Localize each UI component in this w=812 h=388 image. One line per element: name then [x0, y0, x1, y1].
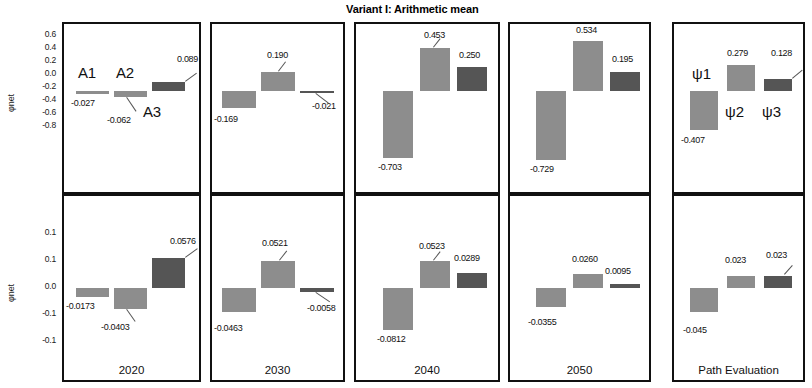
bar-bottom-2050-a2 [573, 274, 603, 288]
bar-top-2020-a2 [114, 91, 147, 97]
value-label-top-2040-a1: -0.703 [378, 163, 402, 172]
y-tick-bottom-2: 0.0 [4, 282, 56, 291]
bar-top-2020-a1 [76, 91, 109, 94]
value-label-top-2030-a2: 0.190 [267, 51, 288, 60]
value-label-top-path-psi3: 0.128 [771, 49, 792, 58]
bar-bottom-path-psi1 [690, 288, 718, 312]
plot-area-bottom-2040: -0.0812 0.0523 0.0289 2040 [356, 196, 498, 380]
value-label-bottom-2050-a1: -0.0355 [528, 318, 556, 327]
chart-row-variant-2: Variant II: Discounting discount factor:… [0, 194, 812, 388]
y-tick-top-3: 0.0 [4, 69, 56, 78]
value-label-top-2050-a2: 0.534 [576, 26, 597, 35]
plot-area-top-2040: -0.703 0.453 0.250 [356, 24, 498, 192]
bar-bottom-2030-a3 [300, 288, 334, 292]
series-label-psi3: ψ3 [762, 104, 781, 119]
value-label-bottom-2040-a2: 0.0523 [419, 242, 445, 251]
leader-top-2030-a2 [278, 61, 286, 71]
leader-bottom-2040-a2 [433, 251, 441, 260]
value-label-top-path-psi2: 0.279 [727, 49, 748, 58]
chart-figure: Variant I: Arithmetic mean φnet 0.6 0.4 … [0, 0, 812, 388]
panel-caption-bottom-2050: 2050 [510, 364, 649, 376]
panel-bottom-2020: -0.0173 -0.0403 0.0576 2020 [62, 194, 201, 382]
value-label-top-2050-a3: 0.195 [612, 55, 633, 64]
y-tick-top-5: -0.4 [4, 95, 56, 104]
bar-bottom-2020-a2 [114, 288, 147, 309]
bar-bottom-2040-a1 [383, 288, 413, 330]
bar-top-2020-a3 [152, 82, 185, 91]
series-label-a2: A2 [116, 65, 134, 80]
series-label-psi2: ψ2 [725, 104, 744, 119]
bar-bottom-2030-a2 [261, 261, 295, 288]
value-label-top-2040-a3: 0.250 [459, 51, 480, 60]
bar-bottom-2040-a3 [457, 273, 487, 288]
panel-top-2030: -0.169 0.190 -0.021 [210, 22, 345, 194]
value-label-bottom-2030-a2: 0.0521 [262, 239, 288, 248]
y-tick-bottom-4: -0.1 [4, 336, 56, 345]
bar-bottom-2050-a1 [536, 288, 566, 307]
variant-1-title: Variant I: Arithmetic mean [346, 3, 479, 15]
value-label-top-2030-a1: -0.169 [214, 115, 238, 124]
y-axis-bottom: φnet 0.1 0.1 0.0 -0.1 -0.1 [0, 222, 56, 382]
plot-area-bottom-2050: -0.0355 0.0260 0.0095 2050 [510, 196, 649, 380]
y-tick-bottom-3: -0.1 [4, 309, 56, 318]
plot-area-top-path-evaluation: ψ1 ψ2 ψ3 -0.407 0.279 0.128 [674, 24, 803, 192]
value-label-bottom-2020-a3: 0.0576 [170, 237, 196, 246]
y-tick-top-7: -0.8 [4, 121, 56, 130]
y-tick-top-0: 0.6 [4, 30, 56, 39]
bar-bottom-path-psi2 [727, 276, 755, 288]
bar-bottom-2040-a2 [420, 261, 450, 288]
plot-area-top-2050: -0.729 0.534 0.195 [510, 24, 649, 192]
bar-top-2050-a1 [536, 91, 566, 160]
bar-top-2050-a3 [610, 72, 640, 91]
leader-bottom-2020-a3 [185, 248, 198, 258]
y-tick-top-1: 0.4 [4, 43, 56, 52]
value-label-bottom-2050-a3: 0.0095 [605, 267, 631, 276]
panel-caption-bottom-path-evaluation: Path Evaluation [674, 364, 803, 376]
bar-top-path-psi2 [727, 65, 755, 91]
panel-caption-bottom-2020: 2020 [64, 364, 199, 376]
value-label-top-2030-a3: -0.021 [312, 102, 336, 111]
leader-bottom-path-psi3 [784, 265, 793, 275]
bar-bottom-2020-a3 [152, 258, 185, 288]
panel-top-2040: -0.703 0.453 0.250 [354, 22, 500, 194]
leader-bottom-2030-a2 [279, 251, 287, 261]
bar-bottom-path-psi3 [764, 276, 792, 288]
y-tick-bottom-1: 0.1 [4, 255, 56, 264]
leader-bottom-2020-a2 [126, 309, 135, 322]
value-label-bottom-2030-a3: -0.0058 [307, 304, 335, 313]
series-label-a1: A1 [78, 65, 96, 80]
value-label-top-2020-a2: -0.062 [107, 116, 131, 125]
value-label-top-2020-a1: -0.027 [71, 99, 95, 108]
bar-top-path-psi3 [764, 79, 792, 91]
bar-bottom-2020-a1 [76, 288, 109, 297]
panel-caption-bottom-2030: 2030 [212, 364, 343, 376]
value-label-bottom-2050-a2: 0.0260 [572, 255, 598, 264]
panel-bottom-2050: -0.0355 0.0260 0.0095 2050 [508, 194, 651, 382]
panel-top-path-evaluation: ψ1 ψ2 ψ3 -0.407 0.279 0.128 [672, 22, 805, 194]
panel-bottom-path-evaluation: -0.045 0.023 0.023 Path Evaluation [672, 194, 805, 382]
leader-top-path-psi3 [792, 70, 803, 79]
chart-row-variant-1: Variant I: Arithmetic mean φnet 0.6 0.4 … [0, 0, 812, 194]
bar-top-2040-a3 [457, 67, 487, 91]
value-label-bottom-2020-a2: -0.0403 [101, 323, 129, 332]
series-label-a3: A3 [143, 104, 161, 119]
y-axis-top: φnet 0.6 0.4 0.2 0.0 -0.2 -0.4 -0.6 -0.8 [0, 22, 56, 190]
bar-bottom-2050-a3 [610, 284, 640, 288]
panel-top-2020: A1 A2 A3 -0.027 -0.062 0.089 [62, 22, 201, 194]
y-tick-bottom-0: 0.1 [4, 228, 56, 237]
bar-top-2030-a3 [300, 91, 334, 93]
value-label-top-path-psi1: -0.407 [681, 136, 705, 145]
leader-top-2020-a2 [126, 97, 136, 112]
value-label-top-2040-a2: 0.453 [424, 31, 445, 40]
value-label-bottom-path-psi1: -0.045 [683, 326, 707, 335]
leader-bottom-2030-a3 [315, 292, 330, 302]
y-tick-top-6: -0.6 [4, 108, 56, 117]
value-label-bottom-2040-a1: -0.0812 [377, 335, 405, 344]
plot-area-top-2030: -0.169 0.190 -0.021 [212, 24, 343, 192]
bar-bottom-2030-a1 [222, 288, 256, 312]
value-label-top-2020-a3: 0.089 [177, 55, 198, 64]
bar-top-2040-a2 [420, 48, 450, 91]
bar-top-2030-a1 [222, 91, 256, 108]
plot-area-bottom-path-evaluation: -0.045 0.023 0.023 Path Evaluation [674, 196, 803, 380]
series-label-psi1: ψ1 [692, 66, 711, 81]
